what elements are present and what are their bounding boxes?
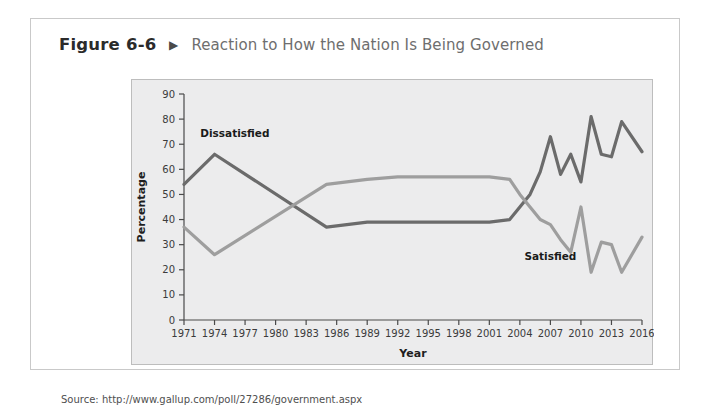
x-axis-tick-label: 2004 (507, 328, 532, 339)
x-axis-tick-label: 2013 (599, 328, 624, 339)
y-axis-tick-label: 40 (162, 214, 175, 225)
x-axis-title: Year (398, 347, 427, 360)
x-axis-tick-label: 1974 (202, 328, 227, 339)
figure-number: Figure 6-6 (59, 35, 156, 54)
source-citation: Source: http://www.gallup.com/poll/27286… (61, 394, 362, 405)
y-axis-tick-label: 20 (162, 264, 175, 275)
y-axis-tick-label: 10 (162, 289, 175, 300)
x-axis-tick-label: 1983 (293, 328, 318, 339)
y-axis-tick-label: 90 (162, 89, 175, 100)
x-axis-tick-label: 1995 (416, 328, 441, 339)
figure-header: Figure 6-6 ▶ Reaction to How the Nation … (59, 35, 544, 54)
x-axis-tick-label: 1986 (324, 328, 349, 339)
y-axis-tick-label: 70 (162, 139, 175, 150)
x-axis-tick-label: 1992 (385, 328, 410, 339)
y-axis-tick-label: 80 (162, 114, 175, 125)
triangle-right-icon: ▶ (169, 38, 178, 52)
x-axis-tick-label: 2016 (629, 328, 654, 339)
x-axis-tick-label: 2007 (538, 328, 563, 339)
figure-card: Figure 6-6 ▶ Reaction to How the Nation … (30, 18, 680, 370)
line-chart: 0102030405060708090197119741977198019831… (132, 80, 654, 366)
x-axis-tick-label: 1977 (232, 328, 257, 339)
chart-plot-panel: 0102030405060708090197119741977198019831… (131, 79, 653, 365)
x-axis-tick-label: 1998 (446, 328, 471, 339)
x-axis-tick-label: 1971 (171, 328, 196, 339)
figure-title: Reaction to How the Nation Is Being Gove… (191, 36, 544, 54)
y-axis-tick-label: 30 (162, 239, 175, 250)
x-axis-tick-label: 2010 (568, 328, 593, 339)
series-label-dissatisfied: Dissatisfied (200, 127, 269, 139)
x-axis-tick-label: 1980 (263, 328, 288, 339)
y-axis-title: Percentage (135, 172, 148, 243)
series-label-satisfied: Satisfied (524, 250, 576, 262)
x-axis-tick-label: 1989 (354, 328, 379, 339)
y-axis-tick-label: 0 (169, 315, 175, 326)
y-axis-tick-label: 60 (162, 164, 175, 175)
x-axis-tick-label: 2001 (477, 328, 502, 339)
y-axis-tick-label: 50 (162, 189, 175, 200)
